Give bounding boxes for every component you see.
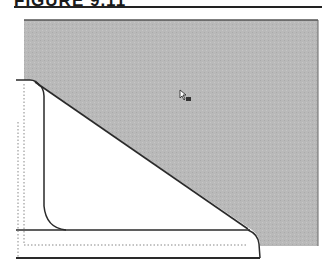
diagram-canvas	[0, 0, 327, 263]
